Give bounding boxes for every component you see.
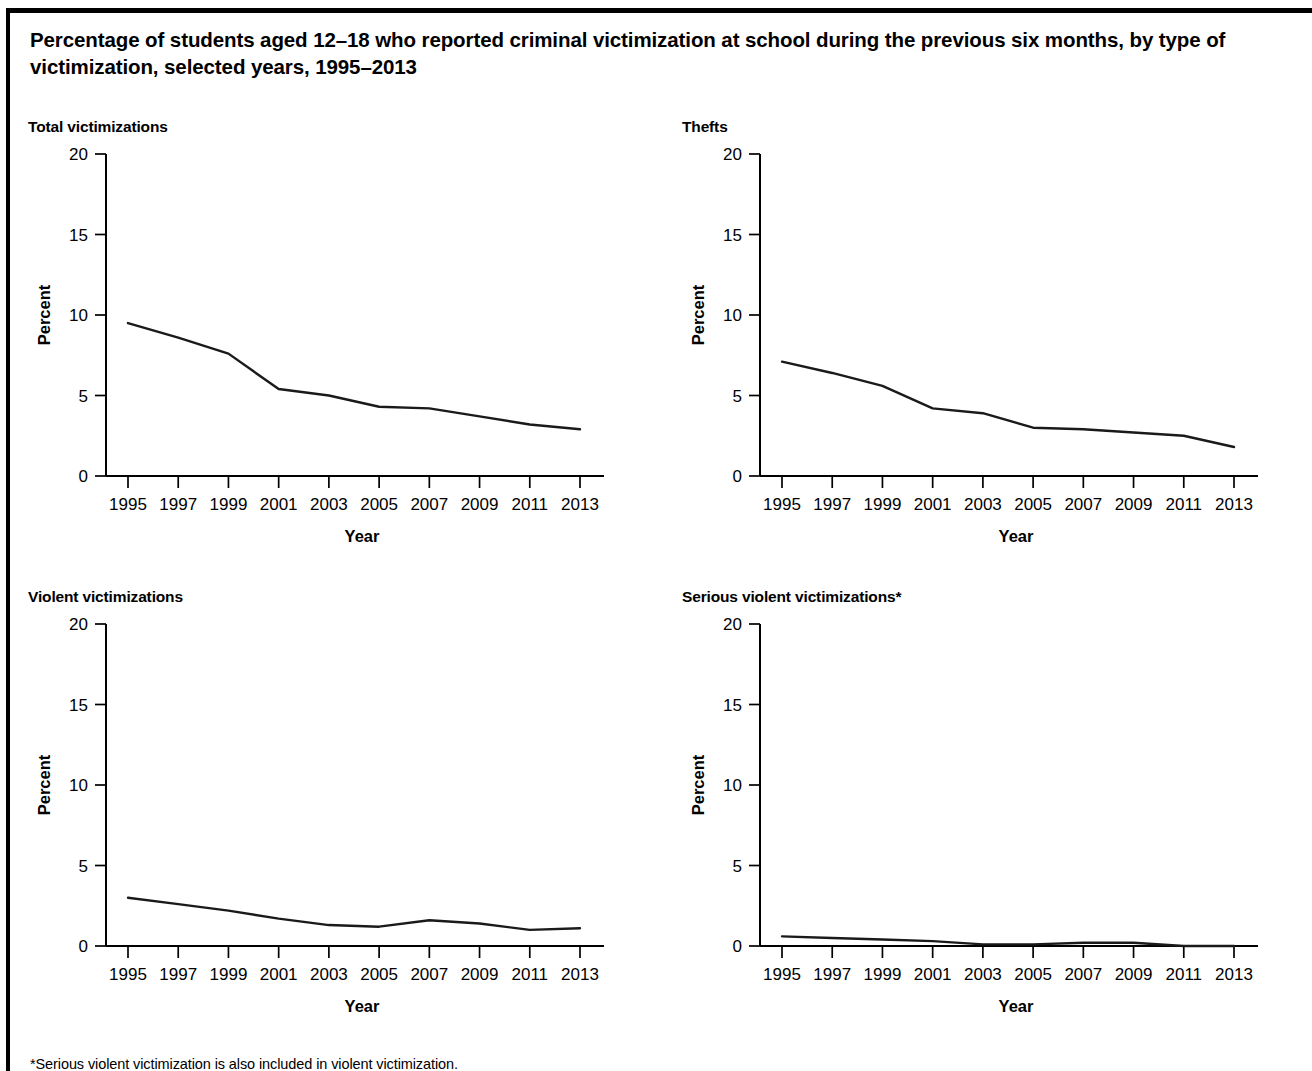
x-tick-label: 2003 (964, 965, 1002, 984)
x-tick-label: 2013 (1215, 965, 1253, 984)
panel-title: Violent victimizations (28, 588, 183, 606)
x-tick-label: 1999 (864, 965, 902, 984)
x-tick-label: 1995 (763, 495, 801, 514)
x-tick-label: 2011 (511, 495, 548, 514)
x-axis-title: Year (345, 997, 380, 1015)
x-tick-label: 1997 (813, 965, 851, 984)
x-tick-label: 2001 (914, 495, 952, 514)
x-tick-label: 1997 (813, 495, 851, 514)
y-tick-label: 10 (723, 306, 742, 325)
y-axis-title: Percent (35, 754, 53, 815)
chart-panel-thefts: Thefts 051015201995199719992001200320052… (672, 118, 1292, 558)
y-tick-label: 0 (733, 467, 742, 486)
figure-title: Percentage of students aged 12–18 who re… (30, 26, 1270, 81)
y-tick-label: 5 (733, 857, 742, 876)
y-tick-label: 20 (69, 615, 88, 634)
y-tick-label: 15 (69, 696, 88, 715)
y-tick-label: 15 (723, 226, 742, 245)
x-tick-label: 1997 (159, 495, 197, 514)
x-tick-label: 2005 (360, 965, 398, 984)
y-tick-label: 10 (69, 776, 88, 795)
y-axis-title: Percent (689, 754, 707, 815)
x-tick-label: 2009 (1115, 965, 1153, 984)
y-tick-label: 20 (723, 615, 742, 634)
line-chart-violent-victimizations: 0510152019951997199920012003200520072009… (18, 606, 638, 1026)
y-axis-title: Percent (689, 284, 707, 345)
y-tick-label: 20 (723, 145, 742, 164)
x-tick-label: 2011 (1165, 965, 1202, 984)
y-tick-label: 0 (79, 937, 88, 956)
x-tick-label: 2001 (260, 965, 298, 984)
line-chart-serious-violent-victimizations: 0510152019951997199920012003200520072009… (672, 606, 1292, 1026)
x-tick-label: 1995 (763, 965, 801, 984)
line-chart-thefts: 0510152019951997199920012003200520072009… (672, 136, 1292, 556)
x-axis-title: Year (345, 527, 380, 545)
x-tick-label: 2009 (461, 495, 499, 514)
y-tick-label: 10 (69, 306, 88, 325)
x-axis-title: Year (999, 527, 1034, 545)
y-tick-label: 5 (79, 857, 88, 876)
y-tick-label: 5 (733, 387, 742, 406)
x-tick-label: 1999 (864, 495, 902, 514)
x-tick-label: 2003 (310, 495, 348, 514)
x-tick-label: 2013 (1215, 495, 1253, 514)
x-tick-label: 2005 (1014, 965, 1052, 984)
x-tick-label: 2011 (1165, 495, 1202, 514)
x-axis-title: Year (999, 997, 1034, 1015)
x-tick-label: 2007 (1064, 495, 1102, 514)
data-series-line (782, 936, 1234, 946)
y-tick-label: 5 (79, 387, 88, 406)
y-tick-label: 20 (69, 145, 88, 164)
data-series-line (128, 323, 580, 429)
x-tick-label: 1995 (109, 965, 147, 984)
x-tick-label: 2007 (410, 965, 448, 984)
x-tick-label: 2003 (310, 965, 348, 984)
x-tick-label: 1999 (210, 495, 248, 514)
chart-panel-total-victimizations: Total victimizations 0510152019951997199… (18, 118, 638, 558)
x-tick-label: 1995 (109, 495, 147, 514)
y-axis-title: Percent (35, 284, 53, 345)
x-tick-label: 2011 (511, 965, 548, 984)
y-tick-label: 0 (79, 467, 88, 486)
x-tick-label: 2005 (360, 495, 398, 514)
y-tick-label: 15 (723, 696, 742, 715)
x-tick-label: 2009 (1115, 495, 1153, 514)
panel-title: Serious violent victimizations* (682, 588, 901, 606)
chart-panel-serious-violent-victimizations: Serious violent victimizations* 05101520… (672, 588, 1292, 1028)
x-tick-label: 2009 (461, 965, 499, 984)
y-tick-label: 0 (733, 937, 742, 956)
data-series-line (128, 898, 580, 930)
x-tick-label: 1997 (159, 965, 197, 984)
x-tick-label: 2013 (561, 965, 599, 984)
line-chart-total-victimizations: 0510152019951997199920012003200520072009… (18, 136, 638, 556)
chart-panel-violent-victimizations: Violent victimizations 05101520199519971… (18, 588, 638, 1028)
x-tick-label: 2007 (1064, 965, 1102, 984)
figure-footnote: *Serious violent victimization is also i… (30, 1056, 458, 1071)
x-tick-label: 1999 (210, 965, 248, 984)
x-tick-label: 2007 (410, 495, 448, 514)
x-tick-label: 2013 (561, 495, 599, 514)
panel-title: Total victimizations (28, 118, 168, 136)
x-tick-label: 2005 (1014, 495, 1052, 514)
x-tick-label: 2001 (914, 965, 952, 984)
y-tick-label: 10 (723, 776, 742, 795)
x-tick-label: 2001 (260, 495, 298, 514)
data-series-line (782, 362, 1234, 447)
y-tick-label: 15 (69, 226, 88, 245)
x-tick-label: 2003 (964, 495, 1002, 514)
panel-title: Thefts (682, 118, 728, 136)
